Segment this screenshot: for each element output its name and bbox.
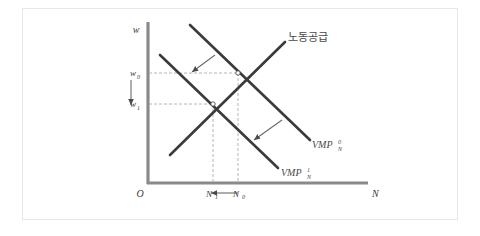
x-tick-n1-base: N (205, 189, 213, 199)
y-tick-w0-sub: 0 (137, 74, 140, 80)
vmp0-base: VMP (312, 139, 333, 150)
x-tick-n1: N 1 (205, 189, 218, 200)
x-tick-n0-base: N (232, 189, 240, 199)
y-tick-w0: w 0 (130, 68, 140, 80)
axes-group (147, 22, 368, 184)
figure-page: w N O w 0 w 1 N 1 N 0 노동공급 VMP 0 N VMP (0, 0, 480, 236)
demand-curve-vmp1 (160, 55, 278, 168)
equilibrium-point-e0 (236, 71, 240, 75)
vmp0-superscript: 0 (338, 139, 341, 145)
x-tick-n0-sub: 0 (242, 194, 245, 200)
labor-supply-curve-label: 노동공급 (288, 31, 328, 44)
curves-group (160, 25, 310, 168)
demand-curve-vmp0-label: VMP 0 N (312, 139, 343, 152)
origin-label: O (136, 188, 143, 199)
x-axis-label: N (371, 188, 380, 199)
y-tick-w1-sub: 1 (137, 105, 140, 111)
demand-curve-vmp1-label: VMP 1 N (281, 167, 312, 180)
x-tick-n1-sub: 1 (215, 194, 218, 200)
labor-market-chart: w N O w 0 w 1 N 1 N 0 노동공급 VMP 0 N VMP (0, 0, 480, 236)
vmp1-superscript: 1 (307, 167, 310, 173)
demand-shift-arrow-upper-icon (192, 55, 215, 72)
vmp1-subscript: N (306, 174, 312, 180)
y-tick-w0-base: w (130, 68, 136, 78)
equilibrium-point-e1 (211, 102, 215, 106)
y-tick-w1-base: w (130, 99, 136, 109)
y-tick-w1: w 1 (130, 99, 140, 111)
x-tick-n0: N 0 (232, 189, 245, 200)
shift-arrows-group (131, 55, 282, 193)
vmp0-subscript: N (337, 146, 343, 152)
y-axis-label: w (133, 24, 140, 35)
guide-lines-group (149, 73, 238, 183)
vmp1-base: VMP (281, 167, 302, 178)
demand-shift-arrow-lower-icon (254, 120, 282, 140)
